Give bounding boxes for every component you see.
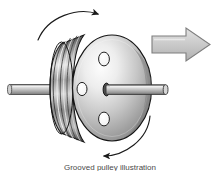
hole-bottom bbox=[99, 112, 110, 126]
figure-container: Grooved pulley illustration bbox=[0, 0, 220, 171]
rotation-arrow-top bbox=[38, 12, 98, 40]
thrust-arrow bbox=[152, 28, 210, 61]
shaft-left bbox=[8, 85, 54, 95]
shaft-right bbox=[106, 85, 168, 95]
hole-top bbox=[99, 52, 110, 66]
hole-left bbox=[77, 82, 87, 95]
pulley-diagram bbox=[0, 0, 220, 171]
figure-caption: Grooved pulley illustration bbox=[0, 163, 220, 171]
